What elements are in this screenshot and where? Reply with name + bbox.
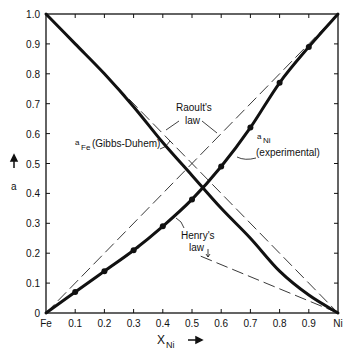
x-tick-label: 0.7 <box>243 318 257 329</box>
data-point <box>131 247 137 253</box>
annotation-henry: Henry's law <box>176 218 215 257</box>
ani-label-main: a <box>257 132 262 141</box>
x-tick-label: 0.8 <box>273 318 287 329</box>
x-tick-labels: Fe0.10.20.30.40.50.60.70.80.9Ni <box>40 318 343 329</box>
annotation-ani: a Ni (experimental) <box>237 132 320 159</box>
data-point <box>277 80 283 86</box>
y-tick-label: 0.2 <box>26 248 40 259</box>
x-axis-label: X Ni <box>157 333 202 350</box>
raoult-label-line2: law <box>185 115 201 126</box>
data-point <box>160 223 166 229</box>
arrow-up-icon <box>11 155 17 168</box>
afe-label-main: a <box>75 138 80 147</box>
data-point <box>101 268 107 274</box>
data-point <box>189 196 195 202</box>
henry-label-line1: Henry's <box>181 230 215 241</box>
raoult-label-line1: Raoult's <box>176 102 212 113</box>
y-tick-label: 0.3 <box>26 218 40 229</box>
y-tick-label: 1.0 <box>26 9 40 20</box>
x-tick-label: 0.2 <box>97 318 111 329</box>
x-label-main: X <box>157 333 165 347</box>
activity-chart: 00.10.20.30.40.50.60.70.80.91.0 Fe0.10.2… <box>0 0 357 360</box>
data-point <box>247 125 253 131</box>
henry-label-line2: law <box>189 242 205 253</box>
x-tick-label: Fe <box>40 318 52 329</box>
annotation-afe: a Fe (Gibbs-Duhem) <box>75 138 170 152</box>
data-point <box>72 289 78 295</box>
x-tick-label: 0.9 <box>302 318 316 329</box>
x-tick-label: 0.6 <box>214 318 228 329</box>
data-point <box>306 44 312 50</box>
x-tick-label: 0.5 <box>185 318 199 329</box>
x-tick-label: 0.1 <box>68 318 82 329</box>
ani-label-line2: (experimental) <box>256 147 320 158</box>
y-tick-label: 0.9 <box>26 39 40 50</box>
afe-label-sub: Fe <box>81 143 91 152</box>
x-tick-label: 0.4 <box>156 318 170 329</box>
y-tick-labels: 00.10.20.30.40.50.60.70.80.91.0 <box>26 9 40 319</box>
ani-label-sub: Ni <box>263 136 271 145</box>
y-tick-label: 0.5 <box>26 159 40 170</box>
y-tick-label: 0.1 <box>26 278 40 289</box>
reference-line <box>201 256 338 313</box>
arrow-right-icon <box>188 337 202 343</box>
annotation-raoult: Raoult's law <box>166 102 217 133</box>
data-point <box>218 163 224 169</box>
y-axis-label: a <box>11 155 17 192</box>
y-tick-label: 0.4 <box>26 188 40 199</box>
y-label-text: a <box>11 181 17 192</box>
x-label-sub: Ni <box>166 340 175 350</box>
y-tick-label: 0.6 <box>26 129 40 140</box>
afe-label-rest: (Gibbs-Duhem) <box>92 138 160 149</box>
y-tick-label: 0.7 <box>26 99 40 110</box>
x-tick-label: Ni <box>333 318 342 329</box>
y-tick-label: 0.8 <box>26 69 40 80</box>
x-tick-label: 0.3 <box>127 318 141 329</box>
